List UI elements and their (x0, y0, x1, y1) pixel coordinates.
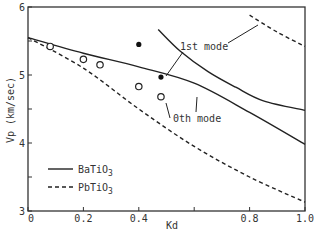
y-axis-label: Vp (km/sec) (5, 77, 16, 143)
y-tick-label: 5 (19, 70, 25, 81)
data-point-open (47, 43, 53, 49)
x-tick-label: 1.0 (296, 213, 314, 224)
x-tick-label: 0.2 (74, 213, 92, 224)
axes: 00.20.40.81.03456 (19, 2, 314, 224)
y-tick-label: 6 (19, 2, 25, 13)
data-point-open (97, 62, 103, 68)
series-line-batio3-0th-mode (28, 38, 305, 145)
x-tick-label: 0.4 (130, 213, 148, 224)
leader-1st-mode-curve (228, 25, 258, 43)
annotation-0th-mode: 0th mode (173, 113, 221, 124)
y-tick-label: 4 (19, 138, 25, 149)
x-tick-label: 0.8 (241, 213, 259, 224)
x-axis-label: Kd (166, 220, 178, 231)
x-tick-label: 0 (28, 213, 34, 224)
series-line-pbtio3-1st-mode (250, 15, 305, 46)
legend-label-pbtio3: PbTiO3 (78, 182, 113, 196)
points-group (47, 42, 164, 100)
data-point-filled (158, 74, 163, 79)
annotation-1st-mode: 1st mode (180, 41, 228, 52)
data-point-filled (136, 42, 141, 47)
legend: BaTiO3 PbTiO3 (48, 164, 113, 196)
phase-velocity-chart: 00.20.40.81.03456 1st mode 0th mode BaTi… (0, 0, 317, 235)
legend-label-batio3: BaTiO3 (78, 164, 113, 178)
series-group (28, 15, 305, 202)
data-point-open (158, 94, 164, 100)
leader-0th-mode-point (166, 103, 170, 118)
data-point-open (80, 56, 86, 62)
leader-0th-mode-curve (196, 97, 197, 112)
leader-1st-mode-point (166, 52, 183, 76)
y-tick-label: 3 (19, 206, 25, 217)
data-point-open (136, 83, 142, 89)
